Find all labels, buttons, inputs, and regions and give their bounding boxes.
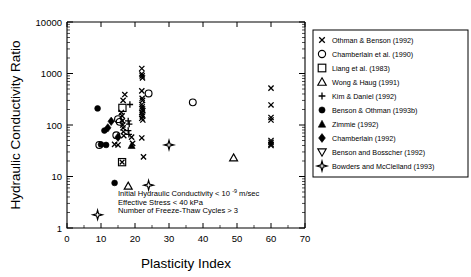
marker-x-point (122, 92, 127, 97)
x-mark (139, 66, 144, 71)
x-tick-label: 30 (164, 233, 175, 244)
legend-item-label: Wong & Haug (1991) (332, 78, 399, 87)
plus-mark (125, 118, 131, 124)
marker-o-fill-legend (319, 107, 325, 113)
y-tick-label: 100 (46, 120, 62, 131)
marker-x-point (121, 133, 126, 138)
marker-o-fill-point (112, 180, 118, 186)
x-mark (139, 88, 144, 93)
x-tick-label: 60 (266, 233, 277, 244)
marker-+-point (126, 121, 132, 127)
marker-x-point (121, 98, 126, 103)
marker-x-point (139, 66, 144, 71)
x-mark (140, 117, 145, 122)
x-mark (141, 154, 146, 159)
marker-+-point (127, 101, 133, 107)
marker-o-fill-point (95, 106, 101, 112)
x-tick-label: 10 (96, 233, 107, 244)
marker-^open-point (230, 154, 238, 161)
legend-item-label: Kim & Daniel (1992) (332, 92, 396, 101)
marker-star4-point (93, 210, 103, 220)
series-0 (112, 66, 274, 160)
legend-item-label: Liang et al. (1983) (332, 64, 390, 73)
marker-x-point (115, 142, 120, 147)
marker-x-point (140, 117, 145, 122)
marker-x-point (268, 86, 273, 91)
plus-mark (127, 101, 133, 107)
y-tick-label: 1 (57, 223, 62, 234)
legend: Othman & Benson (1992)Chamberlain et al.… (313, 30, 468, 177)
marker-+-point (125, 118, 131, 124)
chart-figure: 010203040506070110100100010000Plasticity… (0, 0, 471, 277)
marker-d-fill-point (108, 117, 114, 125)
x-tick-label: 50 (232, 233, 243, 244)
circle-filled (112, 180, 118, 186)
x-axis-title: Plasticity Index (141, 256, 231, 271)
circle-filled (103, 142, 109, 148)
x-mark (121, 133, 126, 138)
circle-filled (319, 107, 325, 113)
x-mark (139, 135, 144, 140)
circle-open (145, 90, 152, 97)
legend-item-label: Zimmie (1992) (332, 120, 378, 129)
x-mark (129, 135, 134, 140)
x-mark (268, 86, 273, 91)
marker-o-point (145, 90, 152, 97)
marker-o-point (189, 99, 196, 106)
y-axis-title: Hydraulic Conductivity Ratio (8, 41, 23, 210)
legend-item[interactable]: Benson and Bosscher (1992) (318, 148, 425, 157)
marker-star4-point (164, 140, 174, 150)
chart-svg: 010203040506070110100100010000Plasticity… (0, 0, 471, 277)
marker-x-point (139, 135, 144, 140)
plot-annotation: Initial Hydraulic Conductivity < 10 -9 m… (118, 188, 260, 215)
star4-open (93, 210, 103, 220)
star4-open (164, 140, 174, 150)
annotation-line-3: Number of Freeze-Thaw Cycles > 3 (118, 206, 238, 215)
triangle-up-open (230, 154, 238, 161)
series-7 (105, 117, 122, 141)
circle-open (189, 99, 196, 106)
x-tick-label: 20 (130, 233, 141, 244)
circle-filled (95, 106, 101, 112)
y-tick-label: 10 (51, 171, 62, 182)
x-mark (268, 102, 273, 107)
marker-o-fill-point (103, 142, 109, 148)
legend-item[interactable]: Benson & Othman (1993b) (319, 106, 418, 115)
legend-item-label: Benson and Bosscher (1992) (332, 148, 425, 157)
y-tick-label: 1000 (41, 68, 62, 79)
diamond-filled (108, 117, 114, 125)
legend-item-label: Othman & Benson (1992) (332, 36, 414, 45)
legend-item[interactable]: Bowders and McClelland (1993) (317, 161, 434, 171)
legend-item-label: Bowders and McClelland (1993) (332, 162, 434, 171)
x-tick-label: 40 (198, 233, 209, 244)
legend-item-label: Benson & Othman (1993b) (332, 106, 418, 115)
x-mark (120, 160, 125, 165)
marker-x-inbox (120, 160, 125, 165)
marker-x-point (129, 135, 134, 140)
plus-mark (126, 121, 132, 127)
marker-x-point (141, 154, 146, 159)
y-tick-label: 10000 (36, 17, 62, 28)
marker-d-fill-point (115, 133, 121, 141)
x-tick-label: 0 (64, 233, 69, 244)
marker-x-point (139, 88, 144, 93)
liang-boxed-x-overlay (120, 160, 125, 165)
legend-item[interactable]: Chamberlain et al. (1990) (318, 50, 413, 59)
x-tick-label: 70 (300, 233, 311, 244)
annotation-line-1: Initial Hydraulic Conductivity < 10 -9 m… (118, 188, 260, 198)
legend-item[interactable]: Othman & Benson (1992) (319, 36, 413, 45)
legend-item-label: Chamberlain (1992) (332, 134, 396, 143)
x-mark (115, 142, 120, 147)
x-mark (121, 98, 126, 103)
x-mark (122, 92, 127, 97)
marker-x-point (268, 102, 273, 107)
legend-item-label: Chamberlain et al. (1990) (332, 50, 413, 59)
diamond-filled (115, 133, 121, 141)
